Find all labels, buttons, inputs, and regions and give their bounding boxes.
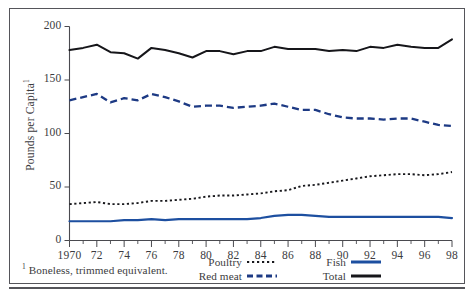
legend-label: Poultry <box>196 256 242 268</box>
legend-label: Fish <box>300 256 346 268</box>
dashed-blue-line-swatch <box>247 271 277 281</box>
y-axis-label-text: Pounds per Capita <box>24 83 36 171</box>
y-axis-label-superscript: 1 <box>22 79 31 83</box>
footnote: 1 Boneless, trimmed equivalent. <box>22 262 168 276</box>
figure-border <box>9 8 465 284</box>
legend-item-poultry[interactable]: Poultry <box>196 256 277 268</box>
y-tick-label: 200 <box>28 19 62 31</box>
legend: PoultryFishRed meatTotal <box>196 256 446 284</box>
y-axis-label: Pounds per Capita1 <box>22 50 36 200</box>
legend-label: Red meat <box>196 270 242 282</box>
legend-item-total[interactable]: Total <box>300 270 381 282</box>
solid-black-line-swatch <box>351 271 381 281</box>
footnote-marker: 1 <box>22 262 26 271</box>
bottom-rule <box>9 287 465 289</box>
footnote-text: Boneless, trimmed equivalent. <box>29 264 168 276</box>
legend-label: Total <box>300 270 346 282</box>
legend-item-red-meat[interactable]: Red meat <box>196 270 277 282</box>
chart-figure: 0501001502001970727476788082848688909294… <box>0 0 474 293</box>
legend-item-fish[interactable]: Fish <box>300 256 381 268</box>
dotted-line-swatch <box>247 257 277 267</box>
y-tick-label: 0 <box>28 233 62 245</box>
solid-blue-line-swatch <box>351 257 381 267</box>
